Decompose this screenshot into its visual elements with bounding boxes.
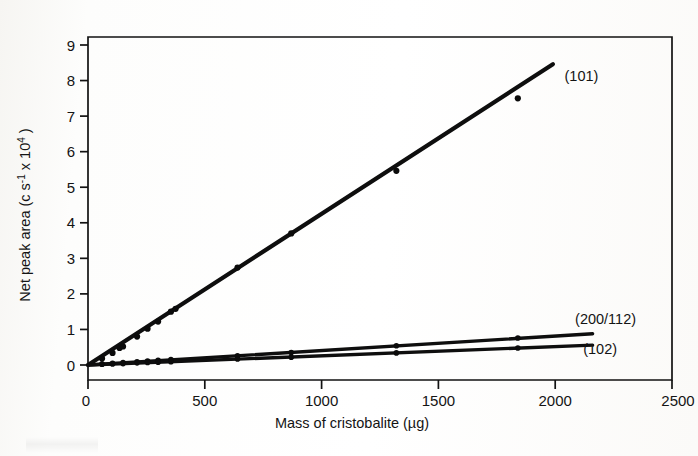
data-point	[394, 350, 400, 356]
data-point	[515, 345, 521, 351]
y-tick-label: 4	[67, 214, 75, 231]
data-point	[393, 168, 399, 174]
series-labels: (101)(200/112)(102)	[565, 68, 637, 357]
y-axis-title: Net peak area (c s-1 x 104 )	[16, 128, 33, 301]
series-label: (102)	[583, 341, 617, 357]
data-point	[144, 326, 150, 332]
data-point	[173, 306, 179, 312]
y-tick-label: 9	[67, 37, 75, 54]
x-tick-label: 1500	[422, 392, 455, 409]
y-tick-label: 7	[67, 108, 75, 125]
data-point	[288, 230, 294, 236]
chart-figure: 0123456789 05001000150020002500 Net peak…	[0, 0, 698, 456]
x-tick-label: 500	[192, 392, 217, 409]
series-data-points	[99, 95, 521, 367]
data-point	[515, 335, 521, 341]
plot-frame	[88, 37, 672, 380]
data-point	[99, 361, 105, 367]
data-point	[288, 354, 294, 360]
y-tick-label: 5	[67, 179, 75, 196]
x-tick-label: 1000	[305, 392, 338, 409]
chart-svg: 0123456789 05001000150020002500 Net peak…	[0, 0, 698, 456]
data-point	[120, 361, 126, 367]
y-tick-label: 1	[67, 321, 75, 338]
data-point	[168, 359, 174, 365]
data-point	[134, 333, 140, 339]
data-point	[145, 360, 151, 366]
x-tick-label: 0	[82, 392, 90, 409]
data-point	[109, 350, 115, 356]
data-point	[99, 356, 105, 362]
x-tick-label: 2000	[539, 392, 572, 409]
y-tick-label: 3	[67, 250, 75, 267]
data-point	[110, 361, 116, 367]
y-axis-title-group: Net peak area (c s-1 x 104 )	[16, 128, 33, 301]
x-axis-ticks: 05001000150020002500	[82, 380, 695, 409]
x-axis-title: Mass of cristobalite (µg)	[275, 415, 429, 431]
y-tick-label: 2	[67, 285, 75, 302]
data-point	[394, 343, 400, 349]
data-point	[235, 356, 241, 362]
data-point	[120, 343, 126, 349]
data-point	[134, 360, 140, 366]
y-tick-label: 0	[67, 357, 75, 374]
data-point	[155, 359, 161, 365]
data-point	[515, 95, 521, 101]
series-trend-lines	[88, 64, 593, 365]
y-tick-label: 8	[67, 72, 75, 89]
frame-box	[88, 37, 672, 380]
series-label: (200/112)	[575, 311, 636, 327]
caption-ghost-mark	[26, 437, 98, 453]
x-tick-label: 2500	[661, 392, 694, 409]
data-point	[155, 319, 161, 325]
data-point	[234, 264, 240, 270]
series-label: (101)	[565, 68, 599, 84]
y-tick-label: 6	[67, 143, 75, 160]
y-axis-ticks: 0123456789	[67, 37, 88, 374]
